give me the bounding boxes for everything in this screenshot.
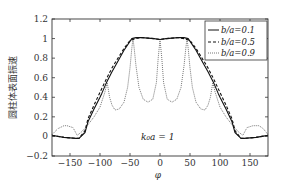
chart: −150−100−50050100150 −0.200.20.40.60.811… (0, 0, 281, 182)
legend: b/a=0.1 b/a=0.5 b/a=0.9 (205, 21, 267, 60)
x-tick-label: 150 (241, 158, 258, 168)
y-tick-label: 0 (42, 131, 48, 141)
y-tick-label: −0.2 (26, 151, 48, 161)
annotation-k0a: k₀a = 1 (141, 132, 174, 142)
x-axis-label: φ (155, 170, 162, 180)
y-axis-label: 圆柱体表面振速 (7, 56, 18, 119)
legend-label: b/a=0.1 (221, 25, 255, 35)
legend-label: b/a=0.5 (221, 37, 255, 47)
y-tick-label: 0.6 (34, 73, 49, 83)
y-tick-label: 1 (42, 34, 48, 44)
y-tick-label: 1.2 (34, 14, 48, 24)
x-tick-label: −50 (121, 158, 140, 168)
y-tick-label: 0.4 (34, 92, 49, 102)
x-tick-label: −150 (58, 158, 83, 168)
legend-label: b/a=0.9 (221, 48, 256, 58)
y-tick-label: 0.8 (34, 53, 49, 63)
x-tick-label: 50 (184, 158, 196, 168)
x-tick-label: 0 (157, 158, 163, 168)
x-tick-label: 100 (211, 158, 228, 168)
x-tick-label: −100 (88, 158, 113, 168)
y-tick-label: 0.2 (34, 112, 48, 122)
